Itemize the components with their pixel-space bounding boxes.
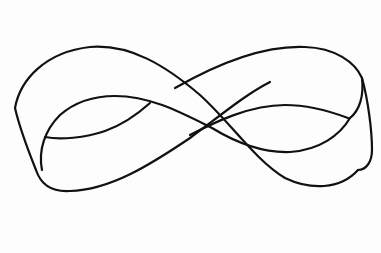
left-outer-bottom-edge [36, 82, 270, 191]
left-inner-lower-edge [45, 103, 150, 138]
left-side-edge [15, 108, 36, 170]
mobius-strip-illustration [0, 0, 381, 253]
mobius-strip-drawing [0, 0, 381, 253]
band-outlines [15, 47, 372, 191]
right-side-edge-outer [358, 78, 372, 170]
right-side-edge-inner [350, 78, 363, 118]
